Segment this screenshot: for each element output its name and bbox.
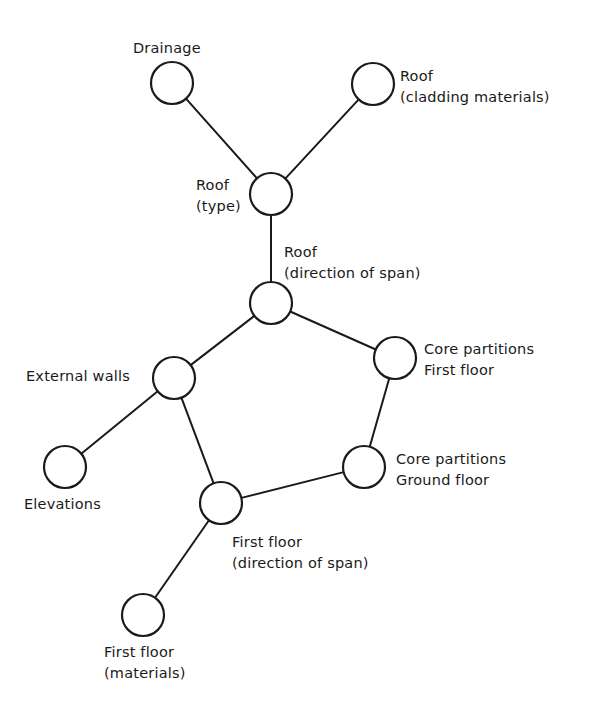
edge-core-first-core-ground	[370, 378, 390, 447]
label-drainage: Drainage	[133, 38, 201, 59]
node-roof-span	[250, 282, 292, 324]
node-core-ground	[343, 446, 385, 488]
edge-external-walls-first-span	[181, 398, 213, 484]
label-core-ground: Core partitions Ground floor	[396, 449, 506, 491]
node-first-span	[200, 482, 242, 524]
label-roof-span: Roof (direction of span)	[284, 242, 421, 284]
edge-drainage-roof-type	[186, 99, 257, 179]
edge-core-ground-first-span	[241, 472, 343, 498]
edge-roof-span-external-walls	[191, 316, 255, 365]
label-first-span: First floor (direction of span)	[232, 532, 369, 574]
label-core-first: Core partitions First floor	[424, 339, 534, 381]
label-roof-cladding: Roof (cladding materials)	[400, 66, 550, 108]
label-roof-type: Roof (type)	[196, 175, 241, 217]
label-external-walls: External walls	[26, 366, 130, 387]
node-drainage	[151, 62, 193, 104]
node-elevations	[44, 446, 86, 488]
label-first-materials: First floor (materials)	[104, 642, 186, 684]
edge-roof-span-core-first	[290, 312, 376, 350]
node-external-walls	[153, 357, 195, 399]
label-elevations: Elevations	[24, 494, 101, 515]
edge-first-span-first-materials	[155, 520, 209, 598]
node-roof-type	[250, 173, 292, 215]
edge-external-walls-elevations	[81, 391, 157, 453]
edges-group	[81, 99, 389, 598]
node-roof-cladding	[352, 63, 394, 105]
node-first-materials	[122, 594, 164, 636]
node-core-first	[374, 337, 416, 379]
edge-roof-cladding-roof-type	[285, 99, 358, 178]
